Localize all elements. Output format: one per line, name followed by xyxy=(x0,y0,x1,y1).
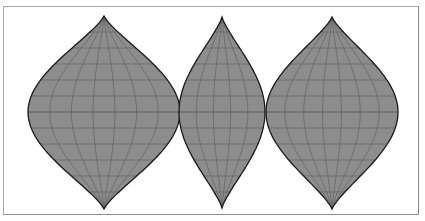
map-lobe-left xyxy=(28,16,180,209)
map-lobe-middle xyxy=(179,17,265,208)
lobe-fill xyxy=(28,16,180,209)
interrupted-world-map xyxy=(0,0,425,221)
lobe-fill xyxy=(266,17,398,209)
lobe-fill xyxy=(179,17,265,208)
map-lobe-right xyxy=(266,17,398,209)
